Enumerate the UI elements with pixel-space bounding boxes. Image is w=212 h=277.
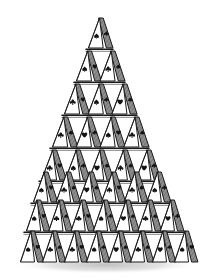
card-pair <box>116 200 140 231</box>
card-pyramid <box>20 18 197 262</box>
card-pair <box>52 117 77 147</box>
card-pair <box>160 200 184 231</box>
card-pair <box>152 231 175 262</box>
card-pair <box>108 231 131 262</box>
card-pair <box>71 200 95 231</box>
card-pair <box>100 117 125 147</box>
card-tier-3 <box>62 84 137 117</box>
card-pair <box>76 117 101 147</box>
card-pair <box>174 231 197 262</box>
card-pair <box>20 231 43 262</box>
card-tier-4 <box>50 117 149 150</box>
card-pair <box>76 51 101 81</box>
card-pair <box>124 117 149 147</box>
card-pair <box>100 51 125 81</box>
card-tier-1 <box>86 18 113 51</box>
card-pair <box>93 200 117 231</box>
card-tier-5 <box>39 150 161 183</box>
card-pair <box>42 231 65 262</box>
card-pair <box>64 231 87 262</box>
card-pair <box>26 200 50 231</box>
card-pair <box>88 84 113 114</box>
card-pair <box>49 200 73 231</box>
card-pyramid-canvas <box>0 0 212 277</box>
card-pair <box>86 231 109 262</box>
card-pair <box>112 84 137 114</box>
card-tier-2 <box>74 51 125 84</box>
card-pair <box>64 84 89 114</box>
card-pair <box>88 18 113 48</box>
house-of-cards-illustration <box>0 0 212 277</box>
card-pair <box>130 231 153 262</box>
card-pair <box>138 200 162 231</box>
